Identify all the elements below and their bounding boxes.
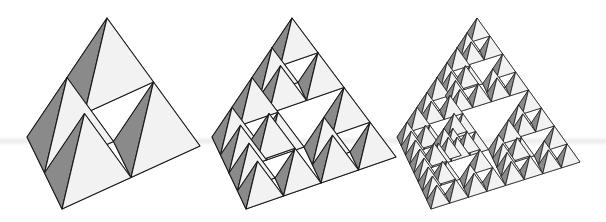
front-face-lit — [484, 36, 503, 60]
front-face-lit — [561, 144, 580, 168]
sierpinski-tetrahedra-figure — [0, 0, 606, 222]
front-face-lit — [510, 72, 529, 96]
front-face-lit — [359, 122, 397, 170]
front-face-lit — [497, 54, 516, 78]
front-face-lit — [333, 88, 371, 136]
front-face-lit — [523, 90, 542, 114]
front-face-lit — [471, 18, 490, 42]
front-face-lit — [536, 108, 555, 132]
front-face-lit — [281, 18, 319, 66]
sierpinski-tetrahedron-level-1 — [27, 18, 200, 209]
sierpinski-tetrahedron-level-2 — [212, 18, 396, 209]
front-face-lit — [549, 126, 568, 150]
sierpinski-tetrahedron-level-3 — [397, 18, 580, 209]
front-face-lit — [307, 53, 345, 101]
